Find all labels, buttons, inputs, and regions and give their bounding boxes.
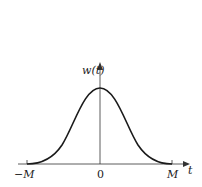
window-curve: [27, 88, 172, 164]
x-axis-label: t: [188, 165, 192, 176]
chart-plot: [0, 0, 202, 187]
tick-label-pos-m: M: [167, 169, 178, 180]
y-axis-label: w(t): [82, 65, 104, 76]
tick-label-neg-m: −M: [14, 169, 34, 180]
tick-label-zero: 0: [97, 169, 104, 180]
